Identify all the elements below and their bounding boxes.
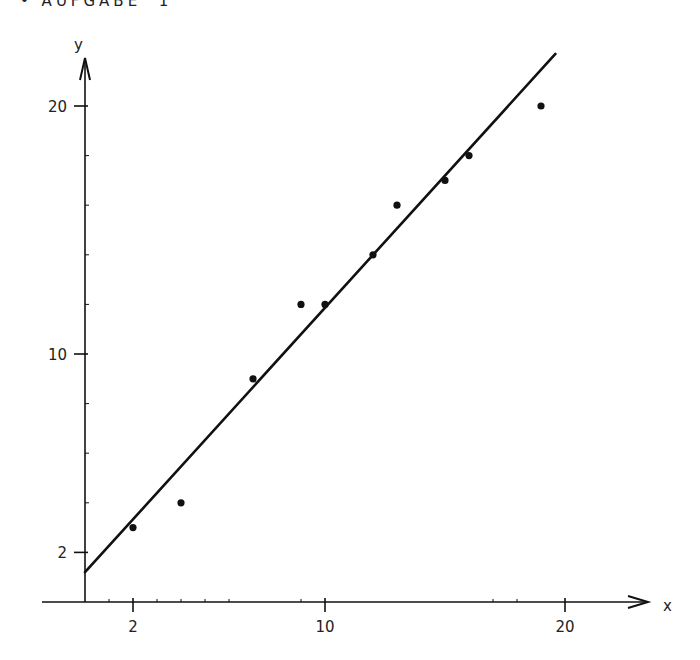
tick-labels: 2102021020 [48, 98, 575, 636]
axis-ticks [74, 106, 565, 612]
data-point [393, 202, 400, 209]
y-axis-label: y [74, 36, 83, 54]
data-point [129, 524, 136, 531]
data-point [297, 301, 304, 308]
fit-line [85, 54, 555, 572]
y-tick-label: 20 [48, 98, 67, 116]
data-points [129, 102, 544, 531]
data-point [321, 301, 328, 308]
y-tick-label: 2 [57, 544, 67, 562]
scatter-chart: xy 2102021020 [0, 0, 700, 660]
data-point [537, 102, 544, 109]
data-point [369, 251, 376, 258]
x-tick-label: 20 [555, 618, 574, 636]
data-point [249, 375, 256, 382]
x-axis-label: x [663, 597, 672, 615]
data-point [441, 177, 448, 184]
y-tick-label: 10 [48, 346, 67, 364]
regression-line [85, 54, 555, 572]
data-point [465, 152, 472, 159]
data-point [177, 499, 184, 506]
x-tick-label: 2 [128, 618, 138, 636]
x-tick-label: 10 [315, 618, 334, 636]
